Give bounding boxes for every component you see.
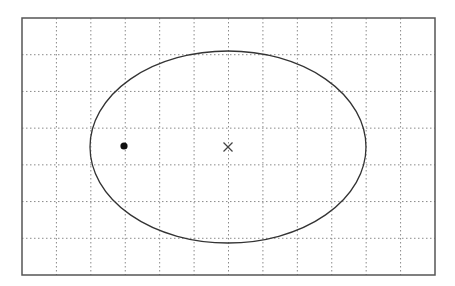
point-dot-icon — [120, 142, 127, 149]
ellipse-diagram — [0, 0, 455, 286]
diagram-canvas — [0, 0, 455, 286]
